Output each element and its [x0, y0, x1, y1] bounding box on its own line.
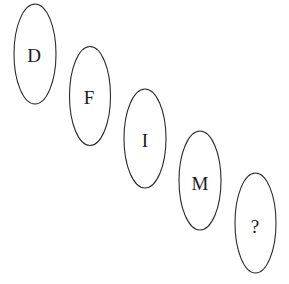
letter-sequence-diagram: D F I M ? — [0, 0, 289, 284]
question-mark: ? — [251, 216, 259, 237]
sequence-item-1: D — [14, 4, 56, 104]
letter-4: M — [192, 173, 209, 194]
letter-3: I — [142, 130, 148, 151]
sequence-item-4: M — [179, 131, 221, 230]
letter-1: D — [27, 45, 41, 66]
sequence-item-3: I — [124, 89, 166, 188]
sequence-item-2: F — [70, 47, 111, 146]
letter-2: F — [84, 87, 95, 108]
sequence-item-5: ? — [235, 173, 276, 273]
